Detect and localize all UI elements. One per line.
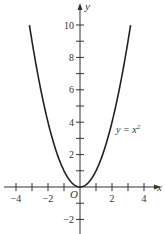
- y-axis-label: y: [84, 0, 90, 12]
- y-tick-label: 6: [69, 84, 74, 95]
- y-tick-label: 4: [69, 117, 74, 128]
- x-tick-label: 2: [110, 193, 115, 204]
- curve-label: y = x2: [115, 123, 141, 135]
- axes: [4, 3, 161, 234]
- y-tick-label: 10: [64, 20, 74, 31]
- y-tick-label: −2: [63, 214, 74, 225]
- x-axis-label: x: [156, 181, 162, 193]
- y-tick-label: 8: [69, 52, 74, 63]
- x-tick-label: −2: [43, 193, 54, 204]
- parabola-chart: −4−224108642−2 x y O y = x2: [0, 0, 165, 234]
- x-tick-label: 4: [142, 193, 147, 204]
- x-tick-label: −4: [11, 193, 22, 204]
- y-axis-arrow-icon: [78, 3, 83, 10]
- y-tick-label: 2: [69, 149, 74, 160]
- origin-label: O: [70, 188, 78, 200]
